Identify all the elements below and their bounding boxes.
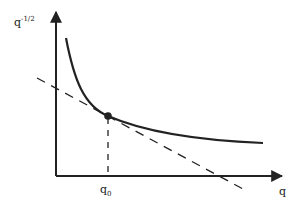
y-axis-label: q-1/2 — [14, 15, 35, 29]
x-tick-q0: q0 — [100, 183, 112, 198]
curve-q-inverse-sqrt — [66, 38, 263, 143]
diagram-canvas — [0, 0, 305, 210]
x-axis-label: q — [279, 185, 286, 198]
tangency-point — [104, 112, 112, 120]
tangent-line — [37, 78, 243, 189]
